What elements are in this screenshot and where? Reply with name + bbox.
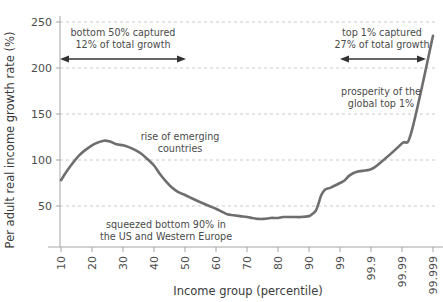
rise-emerging-annotation: rise of emerging countries (141, 131, 220, 154)
bottom-50-annotation: bottom 50% captured 12% of total growth (60, 27, 186, 62)
x-tick-label: 20 (86, 256, 99, 270)
x-tick-label: 10 (55, 256, 68, 270)
x-tick-label: 40 (148, 256, 161, 270)
squeezed-bottom-line2: the US and Western Europe (100, 231, 232, 242)
data-series-line (61, 36, 433, 219)
bottom-50-annotation-line2: 12% of total growth (75, 39, 170, 50)
x-axis-title: Income group (percentile) (173, 284, 323, 298)
y-tick-label: 200 (31, 62, 52, 75)
x-tick-label: 99.99 (396, 256, 409, 288)
squeezed-bottom-annotation: squeezed bottom 90% in the US and Wester… (100, 219, 232, 242)
top-1-annotation-line2: 27% of total growth (334, 39, 429, 50)
y-axis-title: Per adult real income growth rate (%) (3, 32, 17, 249)
x-tick-label: 99 (334, 256, 347, 270)
y-axis-ticks (56, 22, 60, 206)
prosperity-top-line2: global top 1% (348, 98, 414, 109)
y-axis-tick-labels: 250 200 150 100 50 (31, 16, 52, 213)
rise-emerging-line1: rise of emerging (141, 131, 220, 142)
x-tick-label: 99.9 (365, 256, 378, 281)
rise-emerging-line2: countries (158, 143, 203, 154)
x-tick-label: 99.999 (427, 256, 440, 295)
x-tick-label: 60 (210, 256, 223, 270)
chart-canvas: 250 200 150 100 50 Per adult real income… (0, 0, 443, 302)
squeezed-bottom-line1: squeezed bottom 90% in (106, 219, 226, 230)
x-tick-label: 80 (272, 256, 285, 270)
bottom-50-arrow-head-left (60, 56, 69, 63)
y-tick-label: 250 (31, 16, 52, 29)
y-tick-label: 150 (31, 108, 52, 121)
top-1-arrow-head-right (417, 56, 426, 63)
top-1-arrow-head-left (340, 56, 349, 63)
x-tick-label: 70 (241, 256, 254, 270)
y-tick-label: 100 (31, 154, 52, 167)
x-tick-label: 50 (179, 256, 192, 270)
x-tick-label: 30 (117, 256, 130, 270)
prosperity-top-annotation: prosperity of the global top 1% (341, 86, 421, 109)
bottom-50-annotation-line1: bottom 50% captured (71, 27, 176, 38)
elephant-curve-chart: 250 200 150 100 50 Per adult real income… (0, 0, 443, 302)
bottom-50-arrow-head-right (177, 56, 186, 63)
top-1-annotation: top 1% captured 27% of total growth (334, 27, 429, 62)
x-axis-ticks (61, 247, 433, 252)
prosperity-top-line1: prosperity of the (341, 86, 421, 97)
y-tick-label: 50 (38, 200, 52, 213)
x-tick-label: 90 (303, 256, 316, 270)
top-1-annotation-line1: top 1% captured (342, 27, 422, 38)
